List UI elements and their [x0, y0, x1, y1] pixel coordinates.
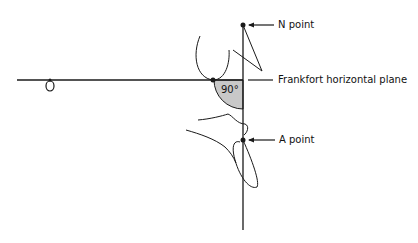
a-point-arrowhead: [248, 138, 254, 143]
palate-outline: [198, 114, 248, 135]
cephalometric-diagram: [0, 0, 418, 243]
n-point-dot: [241, 23, 246, 28]
porion-circle: [46, 81, 54, 91]
incisor-outline: [233, 140, 257, 187]
n-point-arrowhead: [248, 23, 254, 28]
a-point-label: A point: [279, 135, 315, 145]
frankfort-plane-label: Frankfort horizontal plane: [278, 75, 407, 85]
n-point-label: N point: [278, 20, 314, 30]
maxilla-outline: [186, 130, 236, 163]
orbitale-dot: [211, 78, 216, 83]
porion-dot: [49, 79, 52, 82]
orbit-outline: [196, 36, 229, 80]
nasal-outline: [233, 25, 262, 71]
angle-label: 90°: [221, 85, 239, 95]
a-point-dot: [241, 138, 246, 143]
